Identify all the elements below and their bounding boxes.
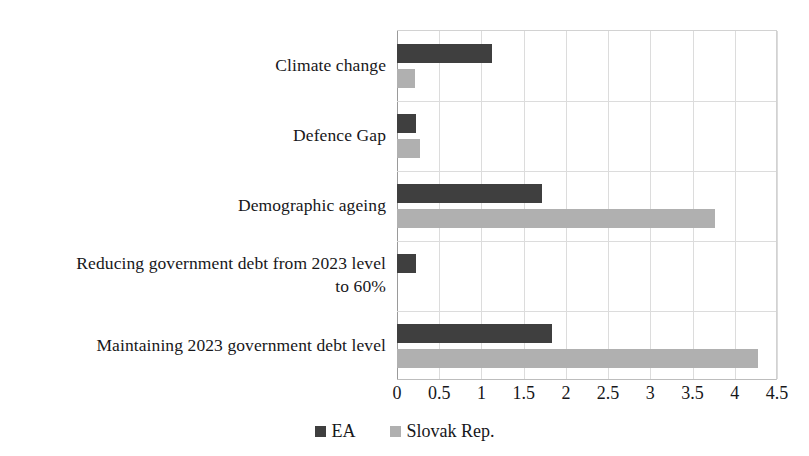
bar-ea[interactable] (397, 184, 542, 203)
category-label: Demographic ageing (0, 194, 386, 217)
bar-ea[interactable] (397, 254, 416, 273)
value-axis-tick-label: 4 (730, 383, 739, 404)
value-axis-tick-label: 2.5 (597, 383, 620, 404)
category-label: Maintaining 2023 government debt level (0, 334, 386, 357)
bar-chart: Climate changeDefence GapDemographic age… (0, 0, 809, 456)
legend-label: Slovak Rep. (407, 421, 495, 442)
category-label-line: Defence Gap (0, 124, 386, 147)
value-axis-tick-label: 2 (561, 383, 570, 404)
bar-slovak-rep[interactable] (397, 69, 415, 88)
value-axis-tick-labels: 00.511.522.533.544.5 (397, 383, 777, 413)
category-label-line: Reducing government debt from 2023 level (0, 252, 386, 275)
category-label-line: to 60% (0, 275, 386, 298)
bar-ea[interactable] (397, 324, 552, 343)
bar-group (397, 171, 776, 241)
category-axis-labels: Climate changeDefence GapDemographic age… (0, 30, 392, 380)
category-label-line: Maintaining 2023 government debt level (0, 334, 386, 357)
legend-item[interactable]: EA (315, 421, 356, 442)
legend-swatch-icon (315, 426, 326, 437)
bar-slovak-rep[interactable] (397, 349, 758, 368)
legend-label: EA (332, 421, 356, 442)
value-axis-tick-label: 1 (477, 383, 486, 404)
category-label: Climate change (0, 54, 386, 77)
bar-slovak-rep[interactable] (397, 209, 715, 228)
chart-legend: EASlovak Rep. (0, 421, 809, 442)
plot-area (397, 30, 777, 380)
legend-swatch-icon (390, 426, 401, 437)
bar-slovak-rep[interactable] (397, 139, 420, 158)
bar-group (397, 241, 776, 311)
category-label-line: Demographic ageing (0, 194, 386, 217)
value-axis-tick-label: 4.5 (766, 383, 789, 404)
legend-item[interactable]: Slovak Rep. (390, 421, 495, 442)
bar-group (397, 101, 776, 171)
value-axis-tick-label: 0.5 (428, 383, 451, 404)
category-label: Reducing government debt from 2023 level… (0, 252, 386, 298)
value-axis-tick-label: 0 (393, 383, 402, 404)
category-label-line: Climate change (0, 54, 386, 77)
bar-group (397, 311, 776, 381)
value-axis-tick-label: 1.5 (512, 383, 535, 404)
category-label: Defence Gap (0, 124, 386, 147)
vertical-gridline (777, 31, 778, 379)
value-axis-tick-label: 3.5 (681, 383, 704, 404)
bar-group (397, 31, 776, 101)
bar-ea[interactable] (397, 114, 416, 133)
bar-ea[interactable] (397, 44, 492, 63)
value-axis-tick-label: 3 (646, 383, 655, 404)
